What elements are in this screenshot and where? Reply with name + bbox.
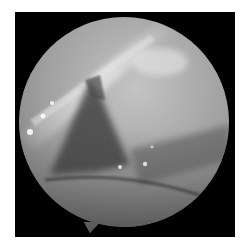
endoscopic-view — [0, 0, 247, 251]
scope-field — [0, 0, 247, 251]
